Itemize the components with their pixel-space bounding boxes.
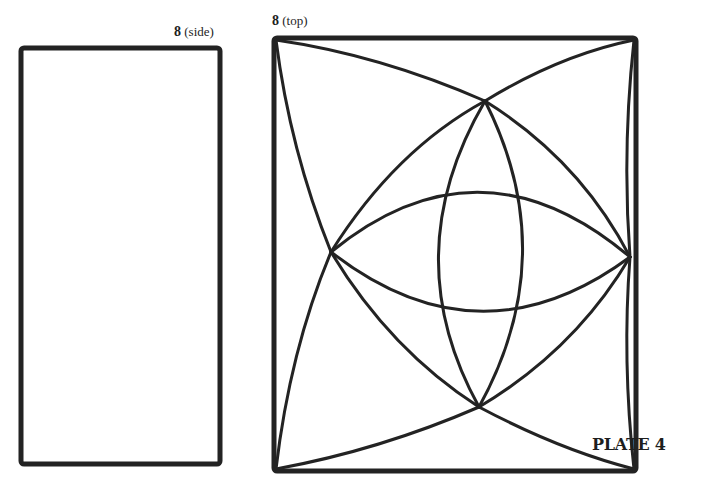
lens-vertical-right (479, 101, 523, 407)
side-view-rectangle (21, 48, 220, 464)
arc-tr-to-right (627, 40, 634, 257)
arc-tl-to-top (276, 40, 485, 101)
arc-tl-to-left (276, 40, 331, 252)
lens-horizontal-upper (331, 192, 630, 257)
lens-horizontal-lower (331, 252, 630, 311)
arc-tr-to-top (485, 40, 634, 101)
top-view-pattern (274, 38, 636, 471)
arc-bottom-to-right (479, 257, 630, 407)
arc-top-to-right (485, 101, 630, 257)
plate-label: PLATE 4 (592, 437, 666, 453)
arc-left-to-top (331, 101, 485, 252)
plate-drawing (0, 0, 714, 495)
arc-bl-to-bottom (276, 407, 479, 469)
arc-left-to-bottom (331, 252, 479, 407)
top-view-frame (274, 38, 636, 471)
lens-vertical-left (438, 101, 485, 407)
arc-bl-to-left (276, 252, 331, 469)
